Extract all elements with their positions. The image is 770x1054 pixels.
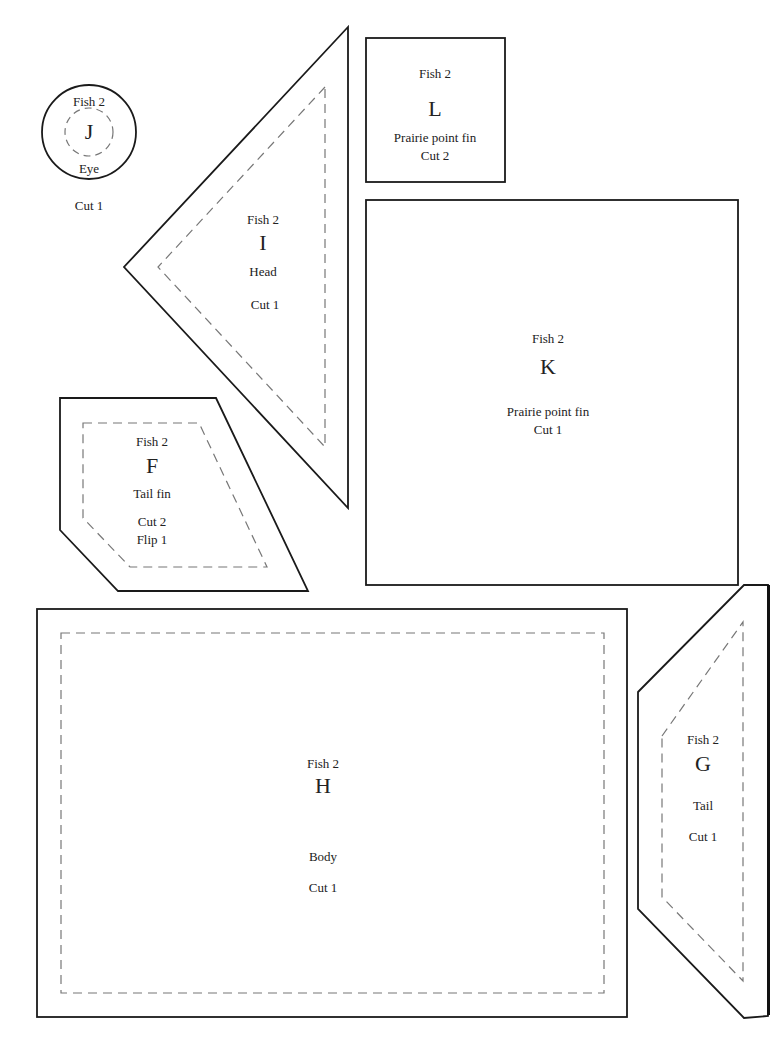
piece-h-group: Fish 2 bbox=[307, 757, 339, 770]
piece-j-cut: Cut 1 bbox=[75, 199, 104, 212]
piece-f-note: Flip 1 bbox=[137, 533, 168, 546]
piece-i-group: Fish 2 bbox=[247, 213, 279, 226]
piece-f-tail-fin bbox=[60, 398, 308, 591]
piece-f-name: Tail fin bbox=[133, 487, 171, 500]
piece-l-group: Fish 2 bbox=[419, 67, 451, 80]
piece-k-letter: K bbox=[540, 356, 556, 378]
piece-j-group: Fish 2 bbox=[73, 95, 105, 108]
piece-g-group: Fish 2 bbox=[687, 733, 719, 746]
piece-k-outline bbox=[366, 200, 738, 585]
piece-f-letter: F bbox=[146, 455, 158, 477]
pattern-sheet bbox=[0, 0, 770, 1054]
piece-f-group: Fish 2 bbox=[136, 435, 168, 448]
piece-h-letter: H bbox=[315, 775, 331, 797]
piece-i-letter: I bbox=[259, 232, 266, 254]
piece-l-cut: Cut 2 bbox=[421, 149, 450, 162]
piece-h-name: Body bbox=[309, 850, 337, 863]
piece-l-letter: L bbox=[428, 98, 441, 120]
piece-k-name: Prairie point fin bbox=[507, 405, 589, 418]
piece-j-name: Eye bbox=[79, 162, 99, 175]
piece-h-body bbox=[37, 609, 627, 1017]
piece-k-cut: Cut 1 bbox=[534, 423, 563, 436]
piece-g-cut: Cut 1 bbox=[689, 830, 718, 843]
piece-i-cut: Cut 1 bbox=[251, 298, 280, 311]
piece-k-group: Fish 2 bbox=[532, 332, 564, 345]
piece-j-letter: J bbox=[85, 121, 94, 143]
piece-l-name: Prairie point fin bbox=[394, 131, 476, 144]
piece-h-cut: Cut 1 bbox=[309, 881, 338, 894]
piece-f-cut: Cut 2 bbox=[138, 515, 167, 528]
piece-g-name: Tail bbox=[693, 799, 713, 812]
piece-i-name: Head bbox=[249, 265, 276, 278]
piece-g-letter: G bbox=[695, 753, 711, 775]
